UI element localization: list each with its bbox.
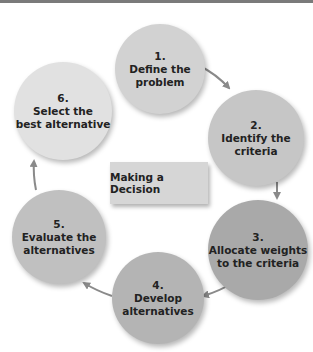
step-6-line2: best alternative — [16, 118, 111, 131]
step-2-line2: criteria — [234, 145, 277, 158]
step-4-line1: Develop — [134, 292, 182, 305]
step-1-number: 1. — [154, 50, 165, 63]
center-title-box: Making a Decision — [110, 162, 208, 204]
step-1-define-problem: 1. Define the problem — [115, 24, 205, 114]
step-5-evaluate-alternatives: 5. Evaluate the alternatives — [12, 190, 106, 284]
diagram-title: Making a Decision — [110, 171, 208, 195]
step-3-allocate-weights: 3. Allocate weights to the criteria — [208, 200, 308, 300]
step-6-line1: Select the — [33, 105, 93, 118]
step-4-develop-alternatives: 4. Develop alternatives — [112, 252, 204, 344]
step-2-line1: Identify the — [221, 132, 290, 145]
step-1-line2: problem — [135, 76, 184, 89]
arrow-5-to-6-icon — [34, 161, 36, 190]
step-3-line1: Allocate weights — [209, 244, 307, 257]
step-2-identify-criteria: 2. Identify the criteria — [208, 90, 304, 186]
step-3-line2: to the criteria — [217, 257, 299, 270]
step-4-line2: alternatives — [122, 305, 193, 318]
step-2-number: 2. — [250, 119, 261, 132]
step-5-number: 5. — [53, 218, 64, 231]
step-6-select-best-alternative: 6. Select the best alternative — [14, 62, 112, 160]
step-4-number: 4. — [152, 279, 163, 292]
arrow-4-to-5-icon — [84, 283, 112, 296]
step-1-line1: Define the — [129, 63, 191, 76]
step-5-line2: alternatives — [23, 244, 94, 257]
step-3-number: 3. — [252, 231, 263, 244]
step-6-number: 6. — [57, 92, 68, 105]
step-5-line1: Evaluate the — [22, 231, 97, 244]
